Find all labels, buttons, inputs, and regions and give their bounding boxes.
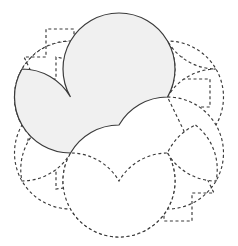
rosette-svg bbox=[0, 0, 238, 246]
shaded-region-top-and-left bbox=[14, 13, 175, 153]
shaded-region-group bbox=[14, 13, 175, 153]
rosette-figure bbox=[0, 0, 238, 246]
spike-bottom bbox=[63, 153, 175, 237]
